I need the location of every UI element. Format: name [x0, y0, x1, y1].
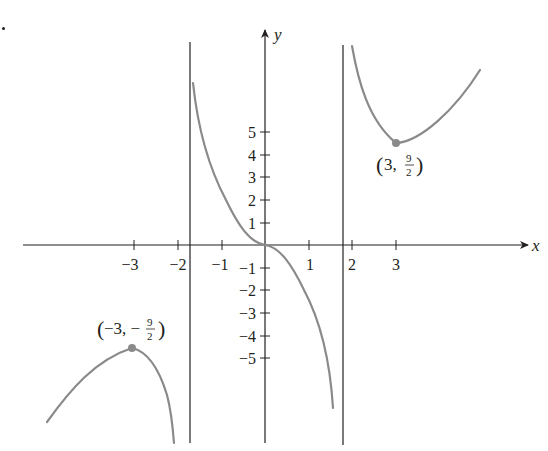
- y-tick-label: 3: [248, 169, 256, 186]
- svg-text:2: 2: [147, 330, 153, 342]
- y-tick-label: −2: [239, 282, 256, 299]
- annotation-local-max: ( −3, − 9 2 ): [97, 316, 165, 342]
- x-tick-label: −2: [169, 256, 186, 273]
- svg-text:(: (: [376, 152, 383, 177]
- curve-right-branch: [352, 46, 480, 143]
- local-max-point: [128, 344, 136, 352]
- local-min-point: [392, 139, 400, 147]
- svg-text:): ): [158, 316, 165, 341]
- svg-text:): ): [416, 152, 423, 177]
- y-tick-label: −1: [239, 260, 256, 277]
- y-axis-label: y: [272, 25, 282, 44]
- y-tick-label: 5: [248, 124, 256, 141]
- svg-text:9: 9: [406, 152, 412, 164]
- svg-text:3,: 3,: [384, 155, 397, 174]
- x-axis-label: x: [531, 236, 540, 255]
- y-tick-label: 2: [248, 192, 256, 209]
- y-tick-label: 1: [248, 215, 256, 232]
- y-tick-label: −5: [239, 350, 256, 367]
- y-tick-label: −3: [239, 305, 256, 322]
- y-tick-label: −4: [239, 328, 256, 345]
- annotation-local-min: ( 3, 9 2 ): [376, 152, 423, 178]
- svg-text:9: 9: [147, 316, 153, 328]
- x-tick-label: 3: [392, 256, 400, 273]
- x-tick-label: −1: [211, 256, 228, 273]
- y-tick-label: 4: [248, 147, 256, 164]
- curve-left-branch: [47, 348, 174, 443]
- x-tick-label: 1: [306, 256, 314, 273]
- x-tick-label: −3: [121, 256, 138, 273]
- function-graph: −3 −2 −1 1 2 3 5 4 3 2 1 −1 −2 −3 −4 −5 …: [0, 0, 548, 451]
- svg-text:2: 2: [406, 166, 412, 178]
- svg-text:−3, −: −3, −: [104, 319, 140, 338]
- x-tick-label: 2: [348, 256, 356, 273]
